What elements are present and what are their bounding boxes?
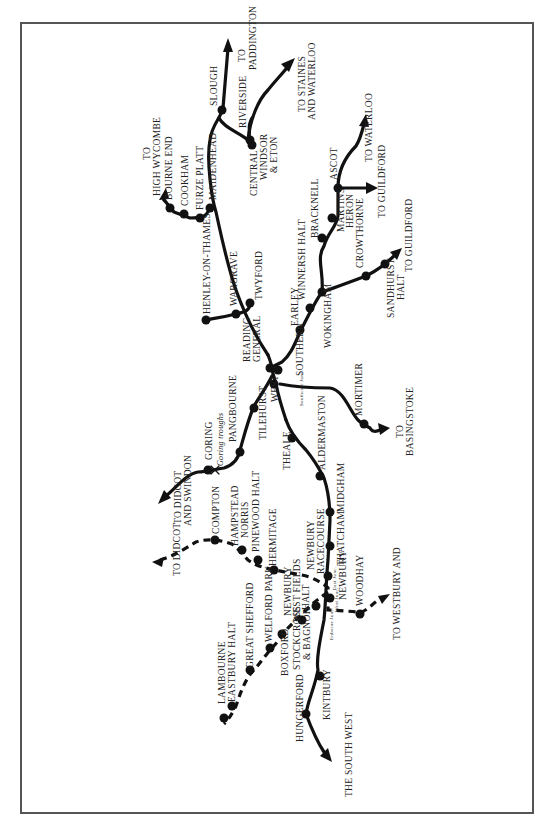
label-west-junc: West Junc. [334, 587, 339, 612]
label-midgham: MIDGHAM [336, 462, 346, 512]
label-cookham: COOKHAM [180, 155, 190, 206]
station-compton[interactable] [211, 536, 220, 545]
station-winnersh[interactable] [306, 304, 315, 313]
arrow-basingstoke [378, 423, 390, 435]
label-reading-1: READING [242, 317, 252, 362]
station-crowthorne[interactable] [362, 272, 371, 281]
label-waterloo: TO WATERLOO [364, 93, 374, 162]
label-eton: & ETON [269, 136, 279, 173]
label-central: CENTRAL [249, 150, 259, 196]
label-mortimer: MORTIMER [354, 363, 364, 416]
label-goring: GORING [204, 421, 214, 460]
label-guildford-2: TO GUILDFORD [404, 199, 414, 272]
station-pangbourne[interactable] [236, 448, 245, 457]
station-bourne-end[interactable] [166, 204, 175, 213]
label-east-junc: East Junc. [332, 567, 337, 590]
label-aldermaston: ALDERMASTON [317, 395, 327, 470]
label-slough: SLOUGH [209, 66, 219, 106]
label-hampstead-2: NORRIS [240, 501, 250, 538]
label-lambourne: LAMBOURNE [217, 641, 227, 704]
station-welford-park[interactable] [266, 644, 275, 653]
label-reading-2: GENERAL [252, 316, 262, 362]
label-sandhurst-1: SANDHURST [386, 258, 396, 318]
label-winchester: TO WESTBURY AND [392, 547, 402, 640]
station-goring[interactable] [204, 466, 213, 475]
station-newbury-west-fields[interactable] [312, 602, 321, 611]
label-didcot: TO DIDCOT [172, 523, 182, 576]
label-great-shefford: GREAT SHEFFORD [245, 582, 255, 668]
label-henley: HENLEY-ON-THAMES [202, 213, 212, 314]
label-winnersh: WINNERSH HALT [297, 219, 307, 300]
label-guildford-1: TO GUILDFORD [377, 145, 387, 218]
label-woodhay: WOODHAY [355, 555, 365, 606]
station-aldermaston[interactable] [316, 472, 325, 481]
label-maidenhead: MAIDENHEAD [208, 133, 218, 200]
station-pinewood[interactable] [254, 556, 263, 565]
label-newbury: NEWBURY [338, 550, 348, 600]
label-southern: SOUTHERN [295, 323, 305, 376]
label-pinewood: PINEWOOD HALT [251, 471, 261, 552]
label-westfields-3: HALT [301, 584, 311, 610]
label-wokingham: WOKINGHAM [323, 283, 333, 348]
station-lambourne[interactable] [220, 714, 229, 723]
station-midgham[interactable] [326, 508, 335, 517]
line-staines [248, 64, 290, 140]
label-bourne-end: BOURNE END [164, 136, 174, 200]
station-mortimer[interactable] [360, 420, 369, 429]
line-waterloo [338, 124, 364, 188]
label-southcote: Southcote Junc. [299, 370, 304, 406]
station-cookham[interactable] [180, 210, 189, 219]
arrow-winchester [378, 594, 390, 604]
label-enborne-junc: Enborne Junc. [329, 607, 334, 640]
label-didcot-swindon-1: TO DIDCOT [173, 471, 183, 524]
station-thatcham[interactable] [326, 542, 335, 551]
label-boxford: BOXFORD [280, 629, 290, 677]
label-furze-platt: FURZE PLATT [195, 146, 205, 210]
label-theale: THEALE [282, 431, 292, 470]
label-staines-2: AND WATERLOO [307, 42, 317, 120]
station-windsor-riverside[interactable] [248, 141, 257, 150]
label-hw-1: TO [142, 147, 152, 160]
label-racecourse-1: NEWBURY [306, 520, 316, 570]
station-wargrave[interactable] [232, 310, 241, 319]
labels: TO PADDINGTON SLOUGH RIVERSIDE TO STAINE… [142, 6, 415, 797]
label-stockcross-2: & BAGNOR [302, 607, 312, 660]
label-welford: WELFORD PARK [264, 566, 274, 642]
label-west: WEST [270, 375, 280, 402]
station-reading-southern[interactable] [274, 366, 283, 375]
label-stockcross-1: STOCKCROSS [292, 606, 302, 670]
label-didcot-swindon-2: AND SWINDON [183, 455, 193, 526]
label-compton: COMPTON [211, 486, 221, 534]
label-ascot: ASCOT [329, 147, 339, 180]
label-racecourse-2: RACECOURSE [316, 508, 326, 574]
arrow-staines [281, 58, 295, 72]
label-sandhurst-2: HALT [396, 274, 406, 300]
label-hampstead-1: HAMPSTEAD [230, 485, 240, 546]
label-basingstoke-2: BASINGSTOKE [405, 387, 415, 456]
label-staines-1: TO STAINES [297, 56, 307, 112]
station-woodhay[interactable] [356, 610, 365, 619]
label-crowthorne: CROWTHORNE [355, 198, 365, 268]
station-maidenhead[interactable] [206, 204, 215, 213]
label-eastbury: EASTBURY HALT [227, 622, 237, 702]
label-paddington-2: PADDINGTON [248, 6, 258, 70]
label-bracknell: BRACKNELL [310, 178, 320, 238]
label-wargrave: WARGRAVE [229, 251, 239, 306]
railway-map: TO PADDINGTON SLOUGH RIVERSIDE TO STAINE… [0, 0, 552, 833]
arrow-didcot [152, 557, 164, 567]
label-basingstoke-1: TO [395, 425, 405, 438]
label-tilehurst: TILEHURST [258, 386, 268, 440]
label-paddington-1: TO [237, 49, 247, 62]
arrow-paddington [223, 38, 233, 52]
label-pangbourne: PANGBOURNE [228, 375, 238, 442]
label-hw-2: HIGH WYCOMBE [152, 117, 162, 196]
station-reading-general[interactable] [266, 364, 275, 373]
label-westbury-1: THE SOUTH WEST [344, 712, 354, 797]
label-kintbury: KINTBURY [322, 669, 332, 720]
label-twyford: TWYFORD [254, 251, 264, 300]
label-windsor: WINDSOR [259, 133, 269, 180]
line-lambourn-valley [224, 592, 328, 724]
label-hungerford: HUNGERFORD [295, 674, 305, 742]
label-martins-2: HERON [345, 194, 355, 228]
station-henley[interactable] [202, 316, 211, 325]
